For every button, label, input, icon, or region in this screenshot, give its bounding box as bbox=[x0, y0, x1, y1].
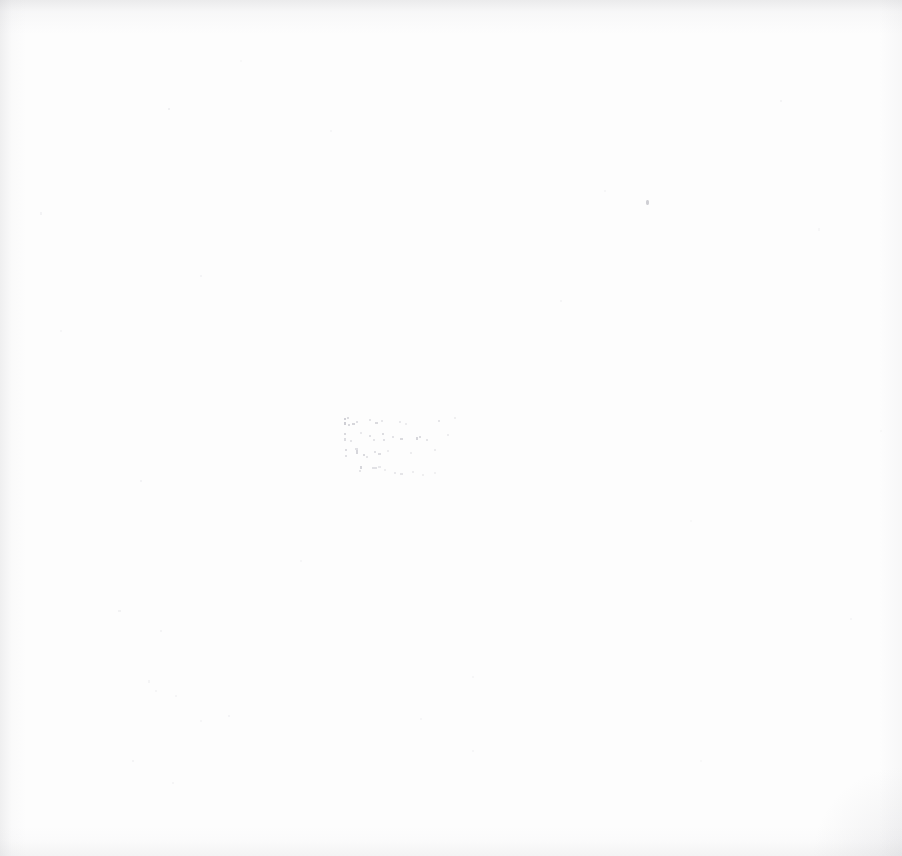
dust-speck bbox=[646, 200, 649, 205]
faded-text-line bbox=[345, 431, 479, 446]
scanned-page bbox=[0, 0, 902, 856]
faded-text-line bbox=[346, 446, 479, 461]
faded-text-line bbox=[358, 461, 479, 476]
faded-text-block bbox=[344, 416, 479, 476]
faded-text-line bbox=[344, 416, 479, 431]
